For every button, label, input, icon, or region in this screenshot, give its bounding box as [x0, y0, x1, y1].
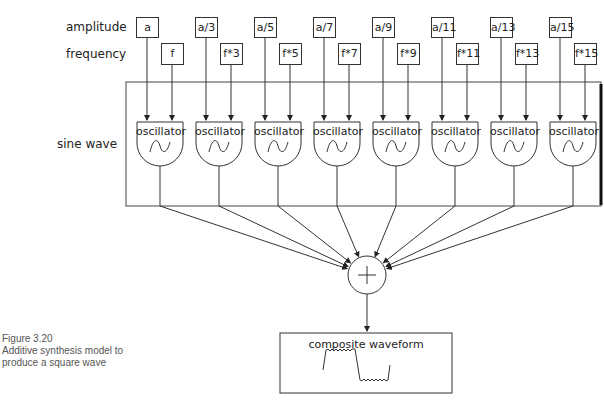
amplitude-box: a/13 [490, 17, 513, 38]
figure-caption: Figure 3.20 Additive synthesis model to … [2, 333, 123, 369]
amplitude-box: a/11 [431, 17, 454, 38]
frequency-box: f*15 [574, 43, 597, 65]
amplitude-box: a/3 [195, 17, 218, 38]
oscillator-label: oscillator [549, 125, 597, 138]
oscillator-label: oscillator [254, 125, 302, 138]
frequency-box: f*13 [515, 43, 538, 65]
oscillator-label: oscillator [195, 125, 243, 138]
amplitude-box: a/5 [254, 17, 277, 38]
oscillator-label: oscillator [490, 125, 538, 138]
sine-wave-row-label: sine wave [57, 137, 117, 151]
oscillator-label: oscillator [372, 125, 420, 138]
amplitude-box: a [136, 17, 159, 38]
oscillator-label: oscillator [431, 125, 479, 138]
frequency-box: f*5 [279, 43, 302, 65]
oscillator-label: oscillator [313, 125, 361, 138]
frequency-box: f*7 [338, 43, 361, 65]
composite-waveform-title: composite waveform [280, 338, 452, 351]
amplitude-box: a/15 [549, 17, 572, 38]
frequency-box: f*11 [456, 43, 479, 65]
amplitude-box: a/7 [313, 17, 336, 38]
caption-line-2: produce a square wave [2, 357, 123, 369]
figure-number: Figure 3.20 [2, 333, 123, 345]
frequency-box: f*3 [220, 43, 243, 65]
amplitude-box: a/9 [372, 17, 395, 38]
frequency-box: f*9 [397, 43, 420, 65]
frequency-row-label: frequency [66, 47, 126, 61]
oscillator-label: oscillator [136, 125, 184, 138]
caption-line-1: Additive synthesis model to [2, 345, 123, 357]
amplitude-row-label: amplitude [66, 20, 127, 34]
frequency-box: f [161, 43, 184, 65]
